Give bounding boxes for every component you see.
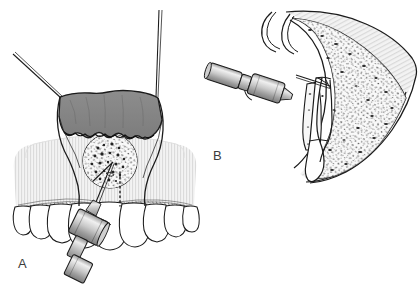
illustration-canvas: A	[0, 0, 418, 287]
panel-a-label: A	[18, 256, 27, 271]
panel-b-label: B	[213, 148, 222, 163]
cystic-lesion-a	[83, 134, 137, 188]
figure-root: A	[0, 0, 418, 287]
